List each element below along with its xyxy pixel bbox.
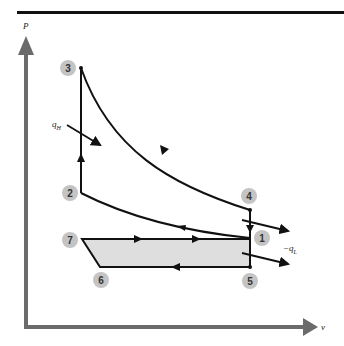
arrow-left-icon [177, 225, 186, 231]
heat-out-label: −qL [283, 243, 298, 255]
arrow-down-icon [246, 225, 254, 233]
arrow-along-expansion-icon [160, 145, 169, 155]
x-axis [24, 325, 308, 329]
state-5-label: 5 [247, 276, 253, 287]
x-axis-label: v [321, 322, 325, 332]
heat-in-arrow-icon [67, 125, 100, 145]
cycle-paths [81, 68, 250, 267]
heat-in-label: qH [52, 119, 62, 131]
state-6-label: 6 [98, 275, 104, 286]
path-3-4 [81, 68, 250, 210]
y-axis-arrow-icon [18, 36, 34, 55]
state-3-label: 3 [65, 63, 71, 74]
state-1-label: 1 [259, 233, 265, 244]
state-4-label: 4 [246, 191, 252, 202]
shaded-cycle-region [82, 239, 250, 267]
axes [18, 36, 318, 336]
top-rule [17, 11, 344, 14]
state-7-label: 7 [67, 235, 73, 246]
pv-diagram: P v qH −qL 3 2 [0, 0, 344, 346]
y-axis [24, 46, 28, 328]
arrow-up-icon [77, 153, 85, 162]
path-1-2 [81, 193, 250, 238]
state-2-label: 2 [67, 188, 73, 199]
x-axis-arrow-icon [303, 318, 318, 336]
y-axis-label: P [22, 21, 29, 31]
